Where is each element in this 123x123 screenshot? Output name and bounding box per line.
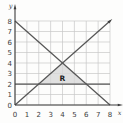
graph-figure: 012345678012345678xyR: [0, 0, 123, 123]
region-label: R: [60, 74, 66, 83]
x-tick-label: 7: [96, 111, 100, 119]
y-tick-label: 1: [8, 91, 12, 99]
y-axis-label: y: [8, 2, 13, 10]
x-tick-label: 8: [108, 111, 112, 119]
x-axis-label: x: [118, 109, 122, 117]
x-tick-label: 3: [48, 111, 52, 119]
x-tick-label: 2: [37, 111, 41, 119]
x-tick-label: 0: [13, 111, 17, 119]
x-tick-label: 4: [60, 111, 65, 119]
y-tick-label: 7: [8, 28, 12, 36]
coordinate-grid-chart: 012345678012345678xyR: [0, 0, 123, 123]
y-tick-label: 3: [8, 70, 12, 78]
x-tick-label: 6: [84, 111, 89, 119]
x-tick-label: 1: [25, 111, 29, 119]
y-tick-label: 4: [8, 60, 13, 68]
y-tick-label: 5: [8, 49, 12, 57]
y-tick-label: 6: [8, 39, 13, 47]
y-tick-label: 0: [8, 102, 12, 110]
y-tick-label: 2: [8, 81, 12, 89]
x-tick-label: 5: [72, 111, 76, 119]
y-tick-label: 8: [8, 18, 12, 26]
